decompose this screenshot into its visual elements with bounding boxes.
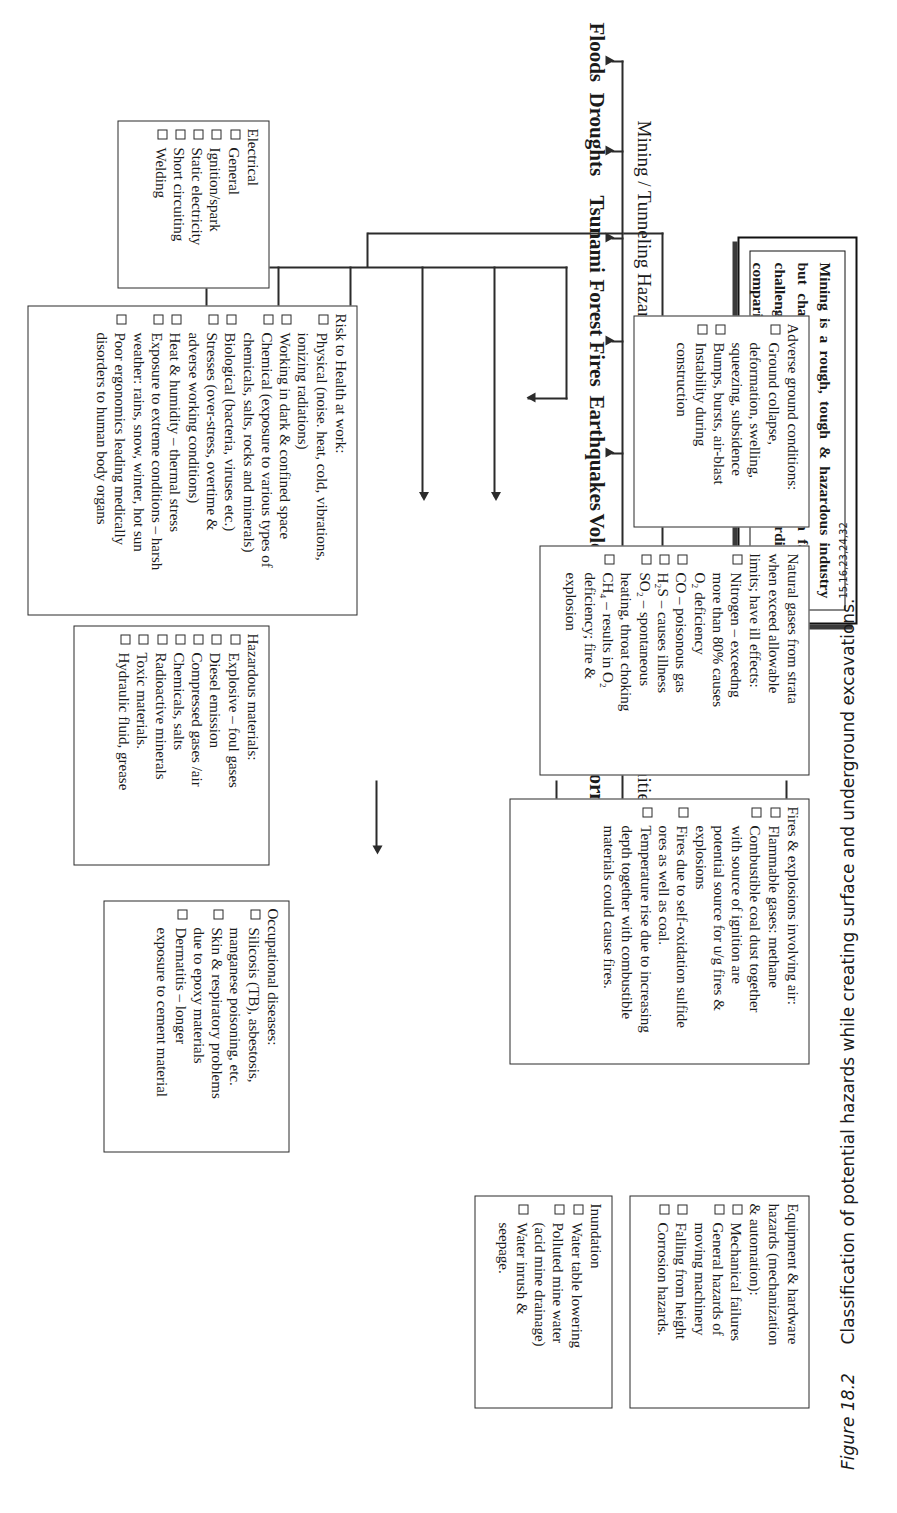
list-item: Nitrogen – exceedng bbox=[726, 553, 744, 765]
list-item-text: Fires due to self-oxidation sulfide bbox=[673, 825, 689, 1027]
list-item-text: Flammable gases: methane bbox=[765, 825, 781, 987]
list-item: depth together with combustible bbox=[617, 806, 635, 1054]
list-item-text: SO₂ – spontaneous bbox=[636, 572, 652, 686]
list-item-text: O₂ deficiency bbox=[691, 572, 707, 654]
list-item-text: seepage. bbox=[495, 1222, 511, 1273]
list-item-text: Static electricity bbox=[188, 147, 204, 245]
box-adverse-ground-items: Ground collapse, deformation, swelling, … bbox=[672, 323, 782, 517]
list-item-text: ionizing radiations) bbox=[294, 332, 310, 449]
list-item-text: deficiency; fire & bbox=[581, 572, 597, 679]
checkbox-icon bbox=[120, 634, 130, 644]
list-item: exposure to cement material bbox=[152, 908, 170, 1142]
list-item: more than 80% causes bbox=[708, 553, 726, 765]
checkbox-icon bbox=[770, 807, 780, 817]
checkbox-icon bbox=[677, 554, 687, 564]
box-risk-to-health-title: Risk to Health at work: bbox=[331, 313, 349, 605]
checkbox-icon bbox=[171, 314, 181, 324]
list-item-text: CO – poisonous gas bbox=[672, 572, 688, 692]
checkbox-icon bbox=[318, 314, 328, 324]
checkbox-icon bbox=[677, 1204, 687, 1214]
checkbox-icon bbox=[678, 807, 688, 817]
box-inundation: Inundation Water table lowering Polluted… bbox=[474, 1195, 612, 1408]
checkbox-icon bbox=[770, 324, 780, 334]
checkbox-icon bbox=[751, 807, 761, 817]
checkbox-icon bbox=[659, 554, 669, 564]
list-item-text: Physical (noise. heat, cold, vibrations, bbox=[313, 332, 329, 560]
list-item-text: General hazards of bbox=[709, 1222, 725, 1335]
checkbox-icon bbox=[659, 1204, 669, 1214]
checkbox-icon bbox=[157, 634, 167, 644]
list-item: Exposure to extreme conditions – harsh bbox=[147, 313, 165, 605]
list-item-text: exposure to cement material bbox=[153, 927, 169, 1097]
box-natural-gases: Natural gases from strata when exceed al… bbox=[539, 545, 809, 775]
list-item-text: Skin & respiratory problems bbox=[208, 927, 224, 1098]
list-item-text: Exposure to extreme conditions – harsh bbox=[148, 332, 164, 570]
list-item: deficiency; fire & bbox=[579, 553, 597, 765]
box-risk-to-health: Risk to Health at work: Physical (noise.… bbox=[27, 305, 357, 615]
checkbox-icon bbox=[211, 634, 221, 644]
list-item-text: CH₄ – results in O₂ bbox=[599, 572, 615, 687]
list-item-text: Falling from height bbox=[672, 1222, 688, 1339]
list-item: ores as well as coal. bbox=[654, 806, 672, 1054]
list-item-text: Poor ergonomics leading medically bbox=[111, 332, 127, 545]
list-item-text: (acid mine drainage) bbox=[531, 1222, 547, 1346]
list-item-text: Welding bbox=[152, 147, 168, 197]
checkbox-icon bbox=[518, 1204, 528, 1214]
list-item-text: Heat & humidity – thermal stress bbox=[166, 332, 182, 532]
list-item-text: Corrosion hazards. bbox=[654, 1222, 670, 1335]
list-item: Polluted mine water bbox=[548, 1203, 566, 1398]
figure-caption: Figure 18.2 Classification of potential … bbox=[838, 522, 858, 1470]
list-item-text: chemicals, salts, rocks and minerals) bbox=[240, 332, 256, 552]
box-natural-gases-subtitle: when exceed allowable limits; have ill e… bbox=[745, 553, 782, 765]
checkbox-icon bbox=[175, 129, 185, 139]
figure-frame: Mining is a rough, tough & hazardous ind… bbox=[0, 0, 897, 1513]
list-item: Static electricity bbox=[187, 128, 205, 278]
checkbox-icon bbox=[153, 314, 163, 324]
list-item-text: H₂S – causes illness bbox=[654, 572, 670, 693]
list-item-text: Biological (bacteria, viruses etc.) bbox=[221, 332, 237, 531]
list-item-text: heating, throat choking bbox=[617, 572, 633, 711]
checkbox-icon bbox=[250, 909, 260, 919]
list-item: Stresses (over-stress, overtime & bbox=[202, 313, 220, 605]
list-item-text: Combustible coal dust together bbox=[746, 825, 762, 1012]
box-electrical-items: General Ignition/spark Static electricit… bbox=[150, 128, 241, 278]
list-item: O₂ deficiency bbox=[689, 553, 707, 765]
list-item: Compressed gases /air bbox=[187, 633, 205, 855]
checkbox-icon bbox=[138, 634, 148, 644]
list-item: Combustible coal dust together bbox=[745, 806, 763, 1054]
list-item-text: due to epoxy materials bbox=[190, 927, 206, 1063]
list-item: manganese poisoning, etc. bbox=[225, 908, 243, 1142]
list-item: potential source for u/g fires & bbox=[709, 806, 727, 1054]
list-item-text: Toxic materials. bbox=[133, 652, 149, 748]
box-fires-explosions-items: Flammable gases: methane Combustible coa… bbox=[599, 806, 782, 1054]
box-occupational-diseases: Occupational diseases: Silicosis (TB), a… bbox=[103, 900, 289, 1152]
box-occupational-diseases-items: Silicosis (TB), asbestosis, manganese po… bbox=[152, 908, 262, 1142]
checkbox-icon bbox=[193, 129, 203, 139]
box-inundation-title: Inundation bbox=[586, 1203, 604, 1398]
list-item: heating, throat choking bbox=[616, 553, 634, 765]
list-item-text: Water inrush & bbox=[513, 1222, 529, 1314]
checkbox-icon bbox=[732, 554, 742, 564]
list-item-text: adverse working conditions) bbox=[185, 332, 201, 503]
checkbox-icon bbox=[211, 129, 221, 139]
list-item: Chemicals, salts bbox=[169, 633, 187, 855]
figure-references: 15,16,23,24,32 bbox=[838, 522, 849, 598]
list-item: Diesel emission bbox=[205, 633, 223, 855]
list-item-text: deformation, swelling, bbox=[746, 342, 762, 477]
list-item-text: Ground collapse, bbox=[765, 342, 781, 444]
list-item-text: Short circuiting bbox=[170, 147, 186, 241]
list-item-text: Polluted mine water bbox=[549, 1222, 565, 1343]
list-item: Poor ergonomics leading medically bbox=[110, 313, 128, 605]
list-item-text: Compressed gases /air bbox=[188, 652, 204, 786]
list-item: General bbox=[223, 128, 241, 278]
list-item-text: Mechanical failures bbox=[727, 1222, 743, 1341]
list-item-text: Nitrogen – exceedng bbox=[727, 572, 743, 697]
checkbox-icon bbox=[193, 634, 203, 644]
checkbox-icon bbox=[230, 634, 240, 644]
checkbox-icon bbox=[281, 314, 291, 324]
checkbox-icon bbox=[714, 1204, 724, 1214]
checkbox-icon bbox=[604, 554, 614, 564]
list-item-text: General bbox=[225, 147, 241, 194]
list-item: Radioactive minerals bbox=[150, 633, 168, 855]
list-item: ionizing radiations) bbox=[293, 313, 311, 605]
